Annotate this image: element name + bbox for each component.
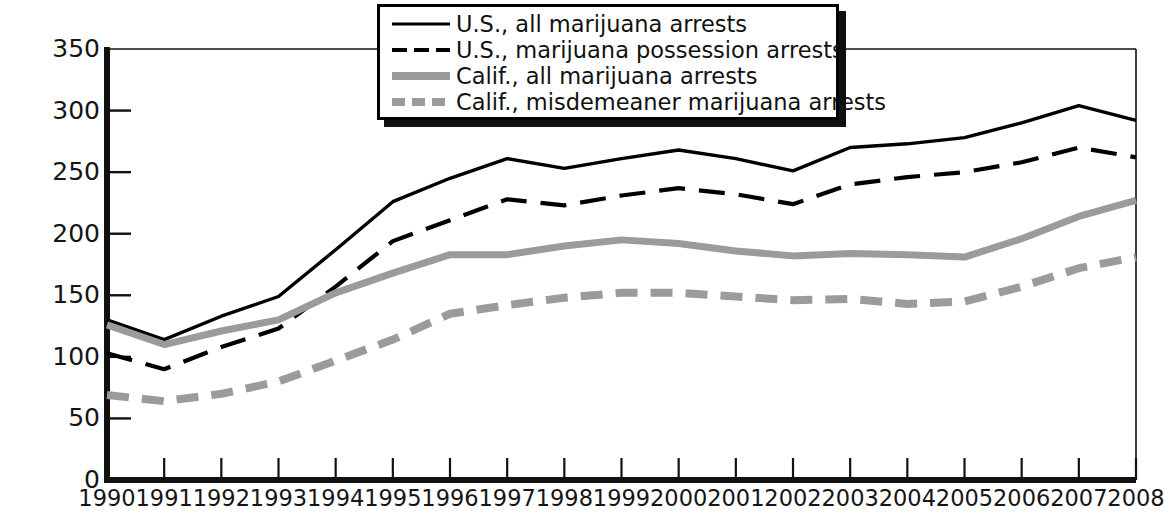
x-tick-label: 1993 [250,487,307,510]
legend-item: Calif., all marijuana arrests [390,63,836,89]
legend-item-label: Calif., all marijuana arrests [456,65,757,88]
legend-item: U.S., marijuana possession arrests [390,37,836,63]
solid-gray-line-swatch [390,69,452,83]
x-tick-label: 1996 [421,487,478,510]
legend-item: Calif., misdemeaner marijuana arrests [390,89,836,115]
dashed-gray-line-swatch [390,95,452,109]
x-tick-label: 2003 [822,487,879,510]
solid-black-line-swatch [390,17,452,31]
x-tick-label: 2005 [936,487,993,510]
x-tick-label: 2000 [650,487,707,510]
x-tick-label: 1991 [136,487,193,510]
x-tick-label: 1992 [193,487,250,510]
legend-item-label: Calif., misdemeaner marijuana arrests [456,91,886,114]
legend-item: U.S., all marijuana arrests [390,11,836,37]
x-tick-label: 2004 [879,487,936,510]
x-tick-label: 1997 [479,487,536,510]
chart-legend: U.S., all marijuana arrestsU.S., marijua… [377,4,839,120]
x-tick-label: 2008 [1107,487,1164,510]
legend-item-label: U.S., marijuana possession arrests [456,39,844,62]
x-tick-label: 1990 [78,487,135,510]
dashed-black-line-swatch [390,43,452,57]
x-tick-label: 1999 [593,487,650,510]
x-tick-label: 2007 [1050,487,1107,510]
x-tick-label: 1998 [536,487,593,510]
x-tick-label: 2002 [764,487,821,510]
x-tick-label: 1995 [364,487,421,510]
legend-item-label: U.S., all marijuana arrests [456,13,747,36]
x-tick-label: 1994 [307,487,364,510]
x-tick-label: 2001 [707,487,764,510]
x-tick-label: 2006 [993,487,1050,510]
